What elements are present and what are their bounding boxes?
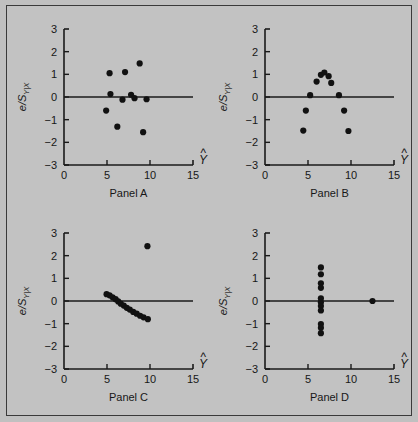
svg-text:Panel A: Panel A	[110, 187, 149, 199]
svg-text:Panel D: Panel D	[310, 391, 349, 403]
svg-text:5: 5	[104, 373, 110, 385]
svg-text:e/SY|X: e/SY|X	[16, 286, 31, 315]
svg-text:−3: −3	[44, 159, 57, 171]
svg-text:1: 1	[51, 272, 57, 284]
svg-text:−3: −3	[245, 363, 258, 375]
svg-text:2: 2	[51, 250, 57, 262]
svg-text:Panel B: Panel B	[310, 187, 349, 199]
svg-text:0: 0	[252, 295, 258, 307]
svg-text:10: 10	[144, 373, 156, 385]
svg-text:e/SY|X: e/SY|X	[16, 82, 31, 111]
panel-d-plot: 3210−1−2−3e/SY|X051015^YPanel D	[209, 211, 410, 415]
svg-text:3: 3	[51, 227, 57, 239]
svg-text:15: 15	[388, 373, 400, 385]
svg-text:Y: Y	[400, 357, 409, 371]
panel-b-plot: 3210−1−2−3e/SY|X051015^YPanel B	[209, 7, 410, 211]
svg-text:2: 2	[51, 46, 57, 58]
svg-text:0: 0	[51, 91, 57, 103]
svg-text:3: 3	[252, 227, 258, 239]
svg-text:e/SY|X: e/SY|X	[217, 82, 232, 111]
svg-text:15: 15	[187, 373, 199, 385]
svg-text:3: 3	[252, 23, 258, 35]
svg-text:1: 1	[51, 68, 57, 80]
svg-text:2: 2	[252, 46, 258, 58]
svg-text:e/SY|X: e/SY|X	[217, 286, 232, 315]
svg-text:0: 0	[61, 373, 67, 385]
svg-text:−1: −1	[245, 114, 258, 126]
svg-text:Y: Y	[400, 153, 409, 167]
svg-text:−1: −1	[44, 114, 57, 126]
svg-text:−1: −1	[245, 318, 258, 330]
svg-text:0: 0	[51, 295, 57, 307]
panel-a-plot: 3210−1−2−3e/SY|X051015^YPanel A	[8, 7, 209, 211]
svg-text:10: 10	[144, 169, 156, 181]
residual-plots-figure: 3210−1−2−3e/SY|X051015^YPanel A 3210−1−2…	[0, 0, 418, 422]
svg-text:10: 10	[345, 373, 357, 385]
svg-text:1: 1	[252, 68, 258, 80]
svg-text:5: 5	[305, 373, 311, 385]
svg-text:15: 15	[187, 169, 199, 181]
svg-text:2: 2	[252, 250, 258, 262]
svg-text:0: 0	[262, 169, 268, 181]
svg-text:−2: −2	[44, 136, 57, 148]
svg-text:Y: Y	[199, 153, 208, 167]
panel-b: 3210−1−2−3e/SY|X051015^YPanel B	[209, 7, 410, 211]
svg-text:−2: −2	[44, 340, 57, 352]
svg-text:5: 5	[104, 169, 110, 181]
svg-text:−3: −3	[44, 363, 57, 375]
svg-text:Y: Y	[199, 357, 208, 371]
svg-text:Panel C: Panel C	[109, 391, 148, 403]
svg-text:1: 1	[252, 272, 258, 284]
svg-text:3: 3	[51, 23, 57, 35]
svg-text:0: 0	[252, 91, 258, 103]
svg-text:−2: −2	[245, 136, 258, 148]
svg-text:0: 0	[61, 169, 67, 181]
panel-a: 3210−1−2−3e/SY|X051015^YPanel A	[8, 7, 209, 211]
svg-text:5: 5	[305, 169, 311, 181]
panel-c: 3210−1−2−3e/SY|X051015^YPanel C	[8, 211, 209, 415]
svg-text:0: 0	[262, 373, 268, 385]
panel-c-plot: 3210−1−2−3e/SY|X051015^YPanel C	[8, 211, 209, 415]
svg-text:−2: −2	[245, 340, 258, 352]
svg-text:10: 10	[345, 169, 357, 181]
svg-text:−1: −1	[44, 318, 57, 330]
panel-d: 3210−1−2−3e/SY|X051015^YPanel D	[209, 211, 410, 415]
svg-text:15: 15	[388, 169, 400, 181]
svg-text:−3: −3	[245, 159, 258, 171]
